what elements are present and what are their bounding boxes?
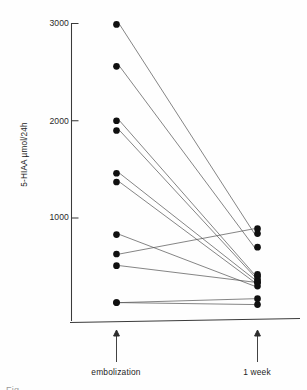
slope-line-patient-5 [120, 173, 255, 279]
figure-panel: 3000 2000 1000 5-HIAA µmol/24h embolizat… [0, 0, 307, 390]
category-label-1-week: 1 week [216, 367, 298, 377]
slope-line-patient-1 [120, 24, 255, 233]
data-point-patient-8-1 week [254, 225, 261, 232]
y-tick-label-1000: 1000 [35, 212, 69, 222]
data-point-patient-10-1 week [254, 295, 261, 302]
slope-line-patient-7 [120, 235, 255, 287]
slope-line-patient-11 [120, 303, 255, 305]
data-point-patient-2-1 week [254, 244, 261, 251]
data-point-patient-9-1 week [254, 279, 261, 286]
slope-line-patient-3 [120, 121, 255, 275]
slope-line-patient-9 [120, 266, 255, 283]
plot-canvas [0, 0, 307, 390]
slope-line-patient-2 [120, 66, 255, 247]
axis-lines [70, 23, 300, 323]
category-label-embolization: embolization [63, 367, 169, 377]
data-point-patient-2-embolization [113, 63, 120, 70]
category-arrows [114, 330, 261, 362]
slope-lines [120, 24, 255, 304]
data-point-patient-7-embolization [113, 231, 120, 238]
data-point-patient-4-embolization [113, 127, 120, 134]
y-axis-title: 5-HIAA µmol/24h [20, 95, 29, 215]
data-point-patient-9-embolization [113, 262, 120, 269]
data-point-patient-1-embolization [113, 21, 120, 28]
slope-line-patient-10 [120, 299, 255, 303]
data-point-patient-3-embolization [113, 117, 120, 124]
data-point-patient-5-embolization [113, 170, 120, 177]
y-tick-label-3000: 3000 [35, 18, 69, 28]
data-point-patient-11-embolization [113, 299, 120, 306]
slope-line-patient-4 [120, 130, 255, 276]
data-point-markers [113, 21, 261, 308]
y-tick-marks [72, 24, 79, 219]
data-point-patient-6-embolization [113, 179, 120, 186]
data-point-patient-11-1 week [254, 301, 261, 308]
y-tick-label-2000: 2000 [35, 116, 69, 126]
arrow-up-icon [114, 330, 120, 336]
data-point-patient-8-embolization [113, 251, 120, 258]
arrow-up-icon [255, 330, 261, 336]
figure-caption-fragment: Fig. [6, 385, 301, 390]
